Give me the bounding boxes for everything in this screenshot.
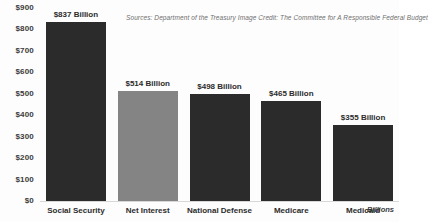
bar-national-defense[interactable]: [190, 94, 250, 201]
x-axis-tick-medicaid: Medicaid: [320, 206, 406, 215]
bar-group: $514 Billion: [118, 0, 178, 202]
y-axis-tick: $0: [25, 196, 34, 205]
y-axis-tick: $300: [15, 132, 34, 141]
y-axis: $900$800$700$600$500$400$300$200$100$0: [0, 0, 40, 222]
y-axis-tick: $800: [15, 24, 34, 33]
bar-value-label: $465 Billion: [249, 89, 333, 98]
bar-group: $465 Billion: [261, 0, 321, 202]
bar-group: $355 Billion: [333, 0, 393, 202]
y-axis-tick: $700: [15, 46, 34, 55]
bar-value-label: $837 Billion: [34, 10, 118, 19]
bar-social-security[interactable]: [46, 22, 106, 201]
y-axis-tick: $100: [15, 175, 34, 184]
bar-medicaid[interactable]: [333, 125, 393, 201]
y-axis-tick: $500: [15, 89, 34, 98]
bar-net-interest[interactable]: [118, 91, 178, 201]
axis-baseline: [40, 201, 399, 202]
y-axis-tick: $900: [15, 3, 34, 12]
bar-medicare[interactable]: [261, 101, 321, 201]
bar-group: $837 Billion: [46, 0, 106, 202]
y-axis-tick: $600: [15, 67, 34, 76]
y-axis-tick: $400: [15, 110, 34, 119]
y-axis-tick: $200: [15, 153, 34, 162]
bar-group: $498 Billion: [190, 0, 250, 202]
x-axis: Social SecurityNet InterestNational Defe…: [40, 203, 399, 222]
plot-area: $837 Billion$514 Billion$498 Billion$465…: [40, 0, 399, 202]
bar-value-label: $355 Billion: [321, 113, 405, 122]
